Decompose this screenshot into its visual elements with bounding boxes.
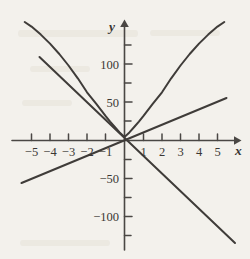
y-tick-label: 100 (100, 58, 119, 72)
x-tick-label: 3 (177, 145, 183, 159)
y-tick-label: −50 (99, 172, 119, 186)
x-tick-labels: −5 −4 −3 −2 −1 1 2 3 4 5 (25, 145, 221, 159)
y-axis-label: y (107, 19, 116, 34)
x-tick-label: −3 (62, 145, 75, 159)
x-tick-label: 2 (159, 145, 165, 159)
paper-texture (18, 30, 220, 246)
y-tick-label: 50 (107, 96, 120, 110)
x-tick-label: −2 (80, 145, 93, 159)
x-tick-label: 5 (214, 145, 220, 159)
x-tick-label: 4 (196, 145, 203, 159)
x-tick-label: 1 (140, 145, 146, 159)
graph-canvas: −5 −4 −3 −2 −1 1 2 3 4 5 100 50 −50 −100… (0, 0, 250, 259)
x-tick-label: −4 (43, 145, 57, 159)
x-tick-label: −1 (99, 145, 112, 159)
y-tick-label: −100 (93, 210, 119, 224)
graph-figure: −5 −4 −3 −2 −1 1 2 3 4 5 100 50 −50 −100… (0, 0, 250, 259)
x-tick-label: −5 (25, 145, 38, 159)
x-axis-label: x (234, 143, 242, 158)
